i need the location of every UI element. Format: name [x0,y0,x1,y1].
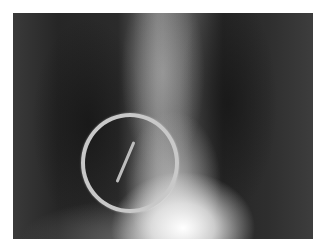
xray-image [13,13,313,239]
annotation-circle [81,113,179,213]
